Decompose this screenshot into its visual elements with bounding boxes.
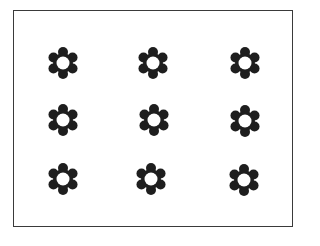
flower-icon bbox=[43, 43, 83, 83]
flower-icon bbox=[43, 159, 83, 199]
flower-icon bbox=[225, 101, 265, 141]
flower-icon bbox=[43, 100, 83, 140]
flower-icon bbox=[134, 100, 174, 140]
flower-icon bbox=[131, 159, 171, 199]
flower-icon bbox=[133, 43, 173, 83]
flower-icon bbox=[225, 43, 265, 83]
flower-icon bbox=[224, 160, 264, 200]
